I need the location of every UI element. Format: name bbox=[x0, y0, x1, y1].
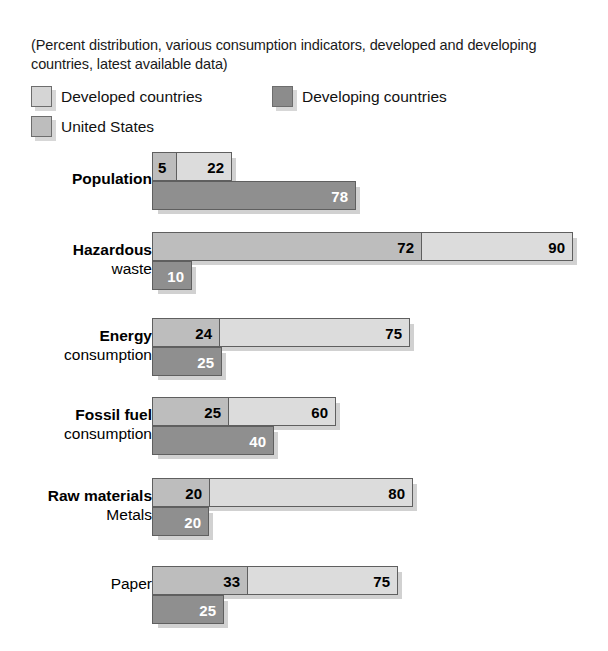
row-label-hazardous-waste: Hazardouswaste bbox=[0, 241, 152, 278]
bar-developed-population: 522 bbox=[152, 152, 232, 181]
bar-value-united-states-population: 5 bbox=[158, 159, 166, 174]
bar-value-united-states-hazardous-waste: 72 bbox=[397, 239, 414, 254]
bar-developing-fossil-fuel-consumption: 40 bbox=[152, 426, 274, 455]
bar-value-developed-population: 22 bbox=[207, 159, 224, 174]
row-label-energy-consumption: Energyconsumption bbox=[0, 327, 152, 364]
row-label-sub: consumption bbox=[0, 346, 152, 365]
row-label-main: Hazardous bbox=[73, 241, 152, 258]
bar-united-states-population: 5 bbox=[153, 153, 177, 180]
bar-developed-hazardous-waste: 7290 bbox=[152, 232, 573, 261]
bar-value-united-states-paper: 33 bbox=[223, 573, 240, 588]
row-label-main: Energy bbox=[99, 327, 152, 344]
row-label-main: Population bbox=[72, 170, 152, 187]
row-label-sub: Metals bbox=[0, 506, 152, 525]
bar-value-developed-hazardous-waste: 90 bbox=[548, 239, 565, 254]
bar-developing-raw-materials-metals: 20 bbox=[152, 507, 209, 536]
chart-plot-area: Population52278Hazardouswaste729010Energ… bbox=[0, 0, 608, 651]
row-label-sub: waste bbox=[0, 260, 152, 279]
bar-united-states-fossil-fuel-consumption: 25 bbox=[153, 398, 229, 425]
bar-united-states-hazardous-waste: 72 bbox=[153, 233, 422, 260]
row-label-population: Population bbox=[0, 170, 152, 189]
bar-united-states-energy-consumption: 24 bbox=[153, 319, 220, 346]
bar-value-developed-paper: 75 bbox=[373, 573, 390, 588]
bar-value-developing-energy-consumption: 25 bbox=[197, 354, 214, 369]
bar-value-developing-population: 78 bbox=[331, 188, 348, 203]
bar-value-united-states-raw-materials-metals: 20 bbox=[185, 485, 202, 500]
bar-value-developing-raw-materials-metals: 20 bbox=[184, 514, 201, 529]
bar-value-united-states-energy-consumption: 24 bbox=[195, 325, 212, 340]
row-label-sub: consumption bbox=[0, 425, 152, 444]
bar-developed-fossil-fuel-consumption: 2560 bbox=[152, 397, 336, 426]
bar-value-united-states-fossil-fuel-consumption: 25 bbox=[204, 404, 221, 419]
bar-united-states-raw-materials-metals: 20 bbox=[153, 479, 210, 506]
row-label-main: Fossil fuel bbox=[75, 406, 152, 423]
bar-developing-energy-consumption: 25 bbox=[152, 347, 222, 376]
row-label-paper: Paper bbox=[0, 575, 152, 594]
row-label-fossil-fuel-consumption: Fossil fuelconsumption bbox=[0, 406, 152, 443]
bar-value-developed-raw-materials-metals: 80 bbox=[388, 485, 405, 500]
bar-value-developing-hazardous-waste: 10 bbox=[167, 268, 184, 283]
bar-value-developing-paper: 25 bbox=[199, 602, 216, 617]
bar-developing-hazardous-waste: 10 bbox=[152, 261, 192, 290]
bar-developing-paper: 25 bbox=[152, 595, 224, 624]
bar-developed-raw-materials-metals: 2080 bbox=[152, 478, 413, 507]
bar-value-developing-fossil-fuel-consumption: 40 bbox=[249, 433, 266, 448]
bar-value-developed-energy-consumption: 75 bbox=[385, 325, 402, 340]
row-label-main: Raw materials bbox=[48, 487, 152, 504]
bar-value-developed-fossil-fuel-consumption: 60 bbox=[311, 404, 328, 419]
bar-united-states-paper: 33 bbox=[153, 567, 248, 594]
row-label-sub: Paper bbox=[0, 575, 152, 594]
bar-developed-paper: 3375 bbox=[152, 566, 398, 595]
bar-developed-energy-consumption: 2475 bbox=[152, 318, 410, 347]
bar-developing-population: 78 bbox=[152, 181, 356, 210]
row-label-raw-materials-metals: Raw materialsMetals bbox=[0, 487, 152, 524]
chart-container: (Percent distribution, various consumpti… bbox=[0, 0, 608, 651]
